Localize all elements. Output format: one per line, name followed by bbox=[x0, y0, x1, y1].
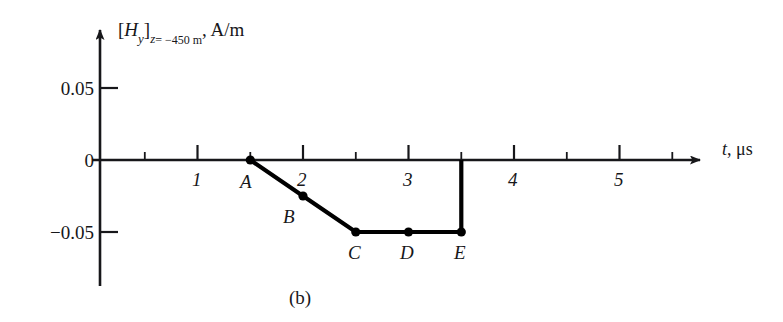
data-point-label-B: B bbox=[283, 207, 295, 226]
data-point-B bbox=[298, 191, 307, 200]
data-point-A bbox=[246, 155, 255, 164]
figure-panel-b: [Hy]z= −450 m, A/m t, μs 0.05 0 −0.05 1 … bbox=[0, 0, 783, 322]
panel-caption: (b) bbox=[289, 288, 311, 307]
x-tick-label-3: 3 bbox=[403, 170, 413, 189]
x-axis-major-ticks bbox=[198, 145, 620, 160]
y-axis-label-quantity-H: H bbox=[124, 19, 138, 40]
data-point-D bbox=[404, 227, 413, 236]
y-axis-label-condition-value: = −450 m bbox=[155, 33, 202, 47]
y-tick-label-neg-0p05: −0.05 bbox=[26, 223, 94, 242]
x-tick-label-2: 2 bbox=[297, 170, 307, 189]
plot-canvas bbox=[0, 0, 783, 322]
data-point-C bbox=[351, 227, 360, 236]
x-axis-label: t, μs bbox=[722, 140, 753, 158]
x-tick-label-1: 1 bbox=[192, 170, 202, 189]
x-tick-label-5: 5 bbox=[614, 170, 624, 189]
data-point-label-E: E bbox=[454, 243, 466, 262]
data-point-label-D: D bbox=[400, 243, 414, 262]
y-axis-label-subscript-y: y bbox=[138, 31, 144, 46]
data-point-label-C: C bbox=[348, 243, 361, 262]
data-point-markers bbox=[246, 155, 466, 236]
data-point-label-A: A bbox=[240, 172, 252, 191]
waveform-curve bbox=[250, 160, 461, 232]
data-point-E bbox=[457, 227, 466, 236]
y-tick-label-0: 0 bbox=[38, 151, 94, 170]
x-axis-label-unit: μs bbox=[736, 139, 753, 159]
y-axis-label-unit: , A/m bbox=[202, 19, 244, 40]
y-tick-label-0p05: 0.05 bbox=[38, 79, 94, 98]
x-tick-label-4: 4 bbox=[508, 170, 518, 189]
y-axis-label: [Hy]z= −450 m, A/m bbox=[118, 20, 244, 43]
